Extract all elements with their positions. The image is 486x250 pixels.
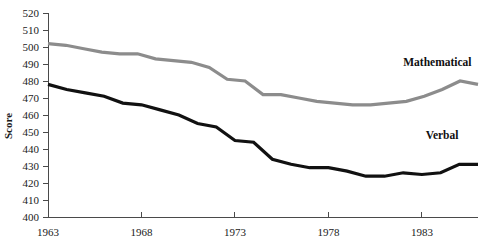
y-tick-label: 450 bbox=[23, 126, 40, 138]
y-tick-label: 410 bbox=[23, 194, 40, 206]
x-tick-label: 1973 bbox=[224, 226, 247, 238]
x-tick-label: 1963 bbox=[37, 226, 60, 238]
y-tick-label: 500 bbox=[23, 41, 40, 53]
x-tick-label: 1978 bbox=[317, 226, 340, 238]
series-annotation-verbal: Verbal bbox=[426, 129, 459, 141]
y-axis-title: Score bbox=[2, 113, 14, 139]
y-tick-label: 470 bbox=[23, 92, 40, 104]
y-tick-label: 480 bbox=[23, 75, 40, 87]
y-tick-label: 490 bbox=[23, 58, 40, 70]
x-tick-label: 1968 bbox=[130, 226, 153, 238]
series-annotation-mathematical: Mathematical bbox=[403, 56, 471, 68]
y-tick-label: 420 bbox=[23, 177, 40, 189]
y-tick-label: 510 bbox=[23, 24, 40, 36]
y-tick-label: 460 bbox=[23, 109, 40, 121]
y-tick-label: 430 bbox=[23, 160, 40, 172]
y-tick-label: 440 bbox=[23, 143, 40, 155]
x-tick-label: 1983 bbox=[411, 226, 434, 238]
x-axis-tick-group: 19631968197319781983 bbox=[37, 212, 433, 238]
y-tick-label: 400 bbox=[23, 211, 40, 223]
sat-score-trend-chart: 400410420430440450460470480490500510520 … bbox=[0, 0, 486, 250]
y-axis-tick-group: 400410420430440450460470480490500510520 bbox=[23, 7, 49, 223]
chart-canvas: 400410420430440450460470480490500510520 … bbox=[0, 0, 486, 250]
series-line-mathematical bbox=[48, 44, 478, 105]
y-tick-label: 520 bbox=[23, 7, 40, 19]
